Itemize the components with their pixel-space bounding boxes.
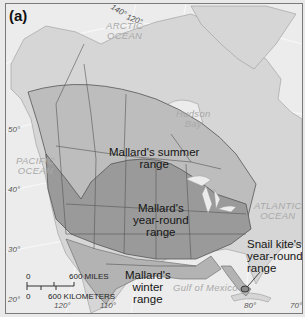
mallard-year-round-line2: year-round [133, 214, 189, 226]
hudson-bay-label: Hudson Bay [176, 109, 211, 129]
mallard-year-round-line1: Mallard's [133, 202, 189, 214]
mallard-summer-range-label: Mallard's summer range [109, 146, 199, 170]
longitude-110: 110° [100, 302, 116, 310]
scale-km-label: 600 KILOMETERS [48, 293, 115, 301]
longitude-70: 70° [290, 302, 302, 310]
mallard-winter-line2: winter [125, 281, 171, 293]
longitude-80: 80° [244, 302, 256, 310]
snail-kite-range-label: Snail kite's year-round range [247, 238, 303, 274]
figure-frame: (a) ARCTIC OCEAN PACIFIC OCEAN ATLANTIC … [0, 0, 305, 317]
scale-miles-zero: 0 [26, 273, 30, 281]
scale-km-zero: 0 [26, 293, 30, 301]
scale-miles-label: 600 MILES [69, 273, 109, 281]
gulf-of-mexico-label: Gulf of Mexico [173, 283, 238, 293]
mallard-summer-line2: range [109, 158, 199, 170]
range-map: (a) ARCTIC OCEAN PACIFIC OCEAN ATLANTIC … [5, 3, 303, 314]
mallard-winter-line1: Mallard's [125, 269, 171, 281]
mallard-winter-range-label: Mallard's winter range [125, 269, 171, 305]
snail-kite-line1: Snail kite's [247, 238, 303, 250]
atlantic-ocean-label: ATLANTIC OCEAN [254, 201, 302, 221]
snail-kite-line2: year-round [247, 250, 303, 262]
hudson-bay-line2: Bay [176, 119, 211, 129]
pacific-ocean-label: PACIFIC OCEAN [16, 156, 55, 176]
mallard-winter-line3: range [125, 293, 171, 305]
latitude-50: 50° [8, 126, 20, 134]
mallard-year-round-line3: range [133, 226, 189, 238]
mallard-year-round-range-label: Mallard's year-round range [133, 202, 189, 238]
pacific-ocean-line2: OCEAN [16, 166, 55, 176]
snail-kite-range [241, 286, 249, 292]
latitude-20: 20° [8, 296, 20, 304]
mallard-summer-line1: Mallard's summer [109, 146, 199, 158]
longitude-120: 120° [54, 302, 71, 310]
panel-label: (a) [9, 8, 27, 24]
arctic-ocean-line2: OCEAN [106, 31, 143, 41]
latitude-40: 40° [8, 186, 20, 194]
latitude-30: 30° [8, 246, 20, 254]
atlantic-ocean-line2: OCEAN [254, 211, 302, 221]
snail-kite-line3: range [247, 262, 303, 274]
